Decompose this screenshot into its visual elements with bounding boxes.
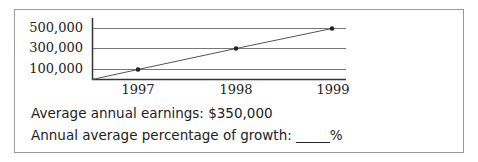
y-tick-label: 100,000 (13, 61, 83, 76)
problem-box: 500,000 300,000 100,000 1997 1998 1999 A… (14, 9, 464, 153)
x-tick-label: 1998 (211, 82, 261, 97)
x-tick-label: 1997 (113, 82, 163, 97)
y-tick-label: 500,000 (13, 20, 83, 35)
growth-question-text: Annual average percentage of growth: ___… (31, 127, 343, 143)
y-tick-label: 300,000 (13, 40, 83, 55)
data-point-1997 (136, 67, 141, 72)
data-point-1999 (330, 26, 335, 31)
earnings-text: Average annual earnings: $350,000 (31, 105, 273, 121)
data-line (92, 29, 332, 80)
x-tick-label: 1999 (308, 82, 358, 97)
data-point-1998 (234, 46, 239, 51)
